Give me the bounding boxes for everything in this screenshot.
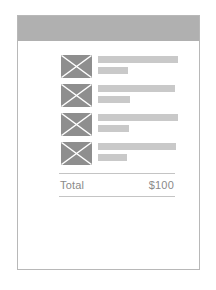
total-rule-bottom (59, 196, 175, 197)
invoice-card: Total $100 (17, 15, 200, 270)
placeholder-image-x-icon (61, 113, 92, 136)
list-item[interactable] (61, 142, 178, 171)
list-item-text (98, 142, 178, 161)
list-item-text (98, 84, 178, 103)
item-subtitle-placeholder (98, 125, 129, 132)
item-title-placeholder (98, 85, 175, 92)
item-title-placeholder (98, 143, 176, 150)
list-item[interactable] (61, 113, 178, 142)
list-item[interactable] (61, 55, 178, 84)
total-section: Total $100 (59, 173, 175, 197)
placeholder-image-x-icon (61, 142, 92, 165)
total-row: Total $100 (59, 174, 175, 196)
list-item[interactable] (61, 84, 178, 113)
card-header-bar (18, 16, 199, 41)
item-subtitle-placeholder (98, 154, 127, 161)
list-item-text (98, 55, 178, 74)
list-item-text (98, 113, 178, 132)
placeholder-image-x-icon (61, 55, 92, 78)
item-subtitle-placeholder (98, 96, 130, 103)
item-title-placeholder (98, 56, 178, 63)
placeholder-image-x-icon (61, 84, 92, 107)
total-value: $100 (149, 179, 174, 191)
line-item-list (61, 55, 178, 171)
total-label: Total (60, 179, 84, 191)
screen: Total $100 (0, 0, 216, 290)
item-subtitle-placeholder (98, 67, 128, 74)
item-title-placeholder (98, 114, 178, 121)
